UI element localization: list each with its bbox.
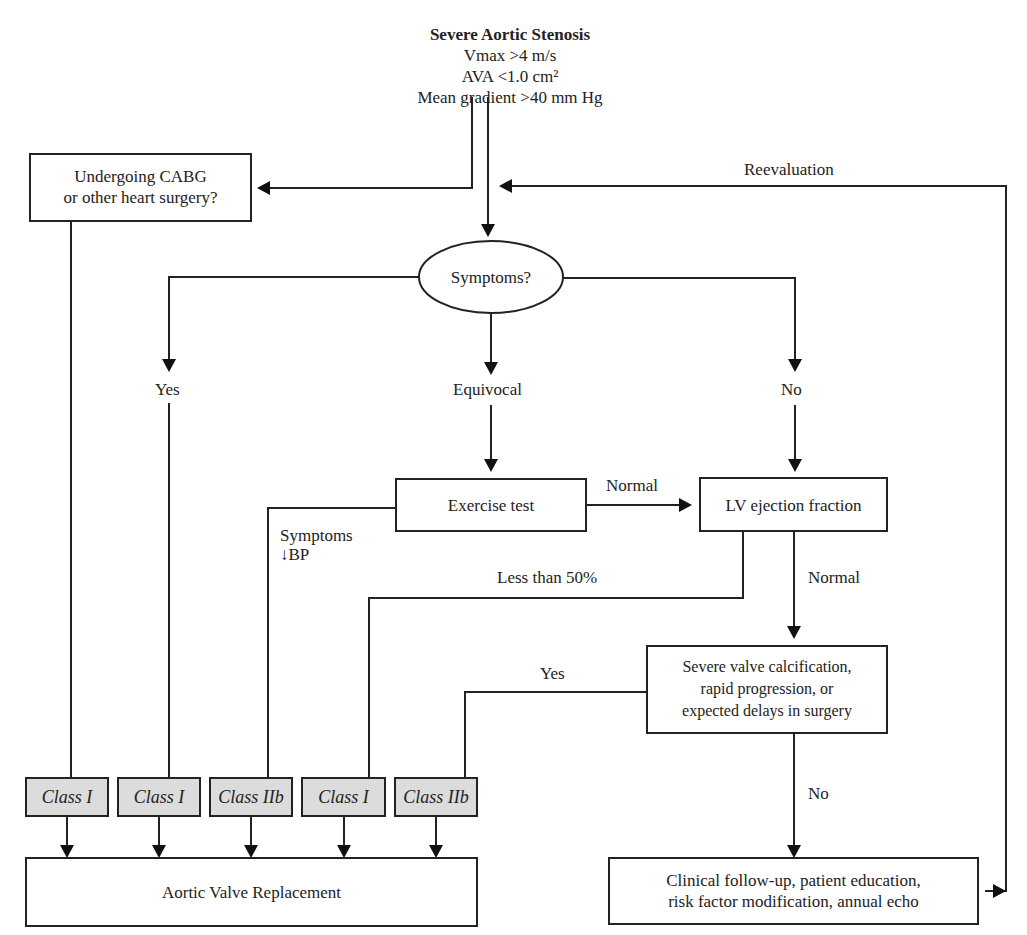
edge-reevaluation-loop: [510, 186, 1006, 891]
no-label: No: [781, 380, 802, 400]
edge-header-to-cabg: [268, 97, 472, 188]
class-label: Class I: [26, 787, 108, 808]
arrowhead: [484, 459, 498, 472]
arrowhead: [993, 884, 1006, 898]
arrowhead: [429, 845, 443, 858]
less-than-50-label: Less than 50%: [497, 568, 597, 588]
avr-node-text: Aortic Valve Replacement: [26, 882, 477, 903]
arrowhead: [162, 359, 176, 372]
calcification-node-text: Severe valve calcification, rapid progre…: [647, 656, 887, 722]
symptoms-bp-label: Symptoms ↓BP: [280, 526, 353, 564]
criterion-vmax: Vmax >4 m/s: [360, 45, 660, 66]
yes-calc-label: Yes: [540, 664, 565, 684]
calcification-line-3: expected delays in surgery: [647, 700, 887, 722]
followup-line-2: risk factor modification, annual echo: [609, 891, 978, 912]
calcification-line-1: Severe valve calcification,: [647, 656, 887, 678]
criterion-ava: AVA <1.0 cm²: [360, 66, 660, 87]
yes-label: Yes: [155, 380, 180, 400]
class-label: Class IIb: [210, 787, 292, 808]
edge-calcification-yes: [465, 692, 647, 778]
header: Severe Aortic Stenosis Vmax >4 m/s AVA <…: [360, 24, 660, 108]
cabg-line-2: or other heart surgery?: [30, 187, 251, 208]
edge-symptoms-no: [563, 278, 795, 362]
lvef-node-text: LV ejection fraction: [700, 495, 887, 516]
no-calc-label: No: [808, 784, 829, 804]
arrowhead: [788, 459, 802, 472]
arrowhead: [679, 498, 692, 512]
arrowhead: [481, 224, 495, 237]
criterion-gradient: Mean gradient >40 mm Hg: [360, 87, 660, 108]
symptoms-bp-line-2: ↓BP: [280, 545, 353, 564]
header-title: Severe Aortic Stenosis: [360, 24, 660, 45]
arrowhead: [257, 181, 270, 195]
edge-symptoms-yes: [169, 277, 419, 362]
arrowhead: [787, 845, 801, 858]
cabg-node-text: Undergoing CABG or other heart surgery?: [30, 166, 251, 208]
followup-line-1: Clinical follow-up, patient education,: [609, 870, 978, 891]
arrowhead: [787, 626, 801, 639]
arrowhead: [337, 845, 351, 858]
arrowhead: [499, 179, 512, 193]
symptoms-node-text: Symptoms?: [419, 267, 563, 288]
calcification-line-2: rapid progression, or: [647, 678, 887, 700]
class-label: Class I: [118, 787, 200, 808]
arrowhead: [244, 845, 258, 858]
exercise-node-text: Exercise test: [396, 495, 586, 516]
symptoms-bp-line-1: Symptoms: [280, 526, 353, 545]
arrowhead: [788, 359, 802, 372]
normal-lvef-label: Normal: [808, 568, 860, 588]
normal-exercise-label: Normal: [606, 476, 658, 496]
class-label: Class IIb: [395, 787, 477, 808]
reevaluation-label: Reevaluation: [744, 160, 834, 180]
arrowhead: [152, 845, 166, 858]
equivocal-label: Equivocal: [453, 380, 522, 400]
followup-node-text: Clinical follow-up, patient education, r…: [609, 870, 978, 912]
arrowhead: [60, 845, 74, 858]
arrowhead: [484, 362, 498, 375]
class-label: Class I: [302, 787, 385, 808]
cabg-line-1: Undergoing CABG: [30, 166, 251, 187]
